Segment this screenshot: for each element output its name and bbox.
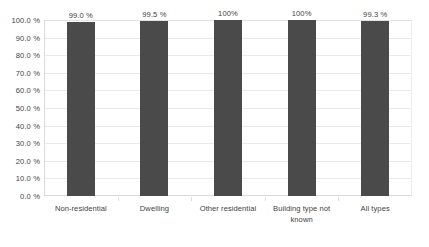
category-tick	[191, 197, 192, 201]
y-tick-label: 70.0 %	[0, 68, 40, 77]
y-tick-label: 20.0 %	[0, 156, 40, 165]
category-label: Dwelling	[118, 204, 192, 215]
category-label: Other residential	[191, 204, 265, 215]
bar[interactable]	[67, 22, 95, 196]
y-tick-label: 0.0 %	[0, 192, 40, 201]
y-tick-label: 10.0 %	[0, 174, 40, 183]
y-tick-label: 50.0 %	[0, 104, 40, 113]
category-slot: All types	[338, 197, 412, 237]
bar[interactable]	[361, 21, 389, 196]
bar-value-label: 100%	[218, 9, 238, 18]
bar-slot: 100%	[265, 20, 339, 196]
category-label: Building type not known	[265, 204, 339, 225]
category-slot: Non-residential	[44, 197, 118, 237]
bar-value-label: 100%	[292, 9, 312, 18]
bar[interactable]	[214, 20, 242, 196]
y-tick-label: 60.0 %	[0, 86, 40, 95]
y-tick-label: 30.0 %	[0, 139, 40, 148]
category-tick	[338, 197, 339, 201]
bar-slot: 100%	[191, 20, 265, 196]
bar[interactable]	[140, 21, 168, 196]
category-slot: Other residential	[191, 197, 265, 237]
bar-slot: 99.0 %	[44, 20, 118, 196]
y-tick-label: 40.0 %	[0, 121, 40, 130]
bar[interactable]	[288, 20, 316, 196]
category-tick	[265, 197, 266, 201]
bar-value-label: 99.3 %	[363, 10, 387, 19]
bar-value-label: 99.0 %	[69, 11, 93, 20]
category-label: Non-residential	[44, 204, 118, 215]
bars-layer: 99.0 %99.5 %100%100%99.3 %	[44, 20, 412, 196]
y-axis: 100.0 %90.0 %80.0 %70.0 %60.0 %50.0 %40.…	[0, 0, 40, 247]
y-tick-label: 90.0 %	[0, 33, 40, 42]
bar-slot: 99.3 %	[338, 20, 412, 196]
x-axis: Non-residentialDwellingOther residential…	[44, 197, 412, 237]
y-tick-label: 100.0 %	[0, 16, 40, 25]
category-tick	[118, 197, 119, 201]
category-label: All types	[338, 204, 412, 215]
category-slot: Dwelling	[118, 197, 192, 237]
bar-chart: 100.0 %90.0 %80.0 %70.0 %60.0 %50.0 %40.…	[0, 0, 429, 247]
category-slot: Building type not known	[265, 197, 339, 237]
y-tick-label: 80.0 %	[0, 51, 40, 60]
bar-slot: 99.5 %	[118, 20, 192, 196]
bar-value-label: 99.5 %	[142, 10, 166, 19]
